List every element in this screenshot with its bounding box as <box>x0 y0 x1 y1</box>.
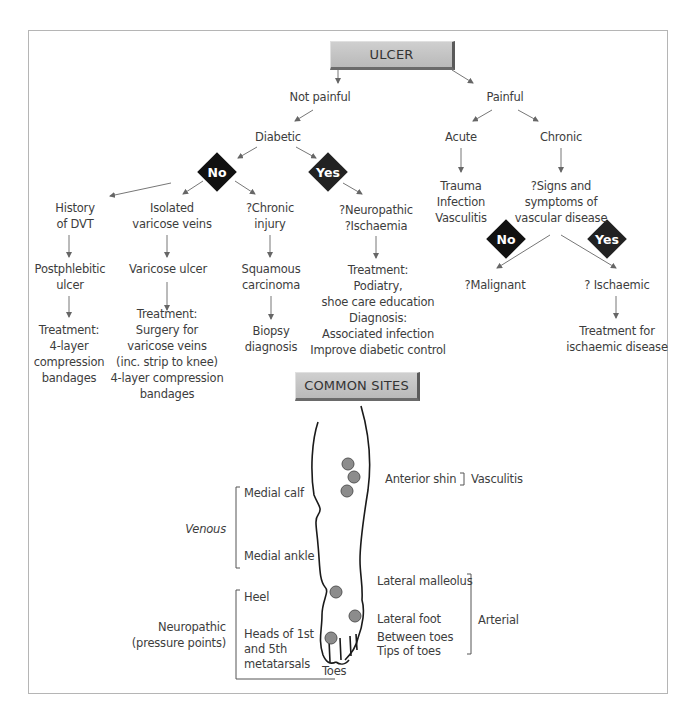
node-acute: Acute <box>445 129 477 145</box>
node-diabetic: Diabetic <box>255 129 301 145</box>
site-medial-calf: Medial calf <box>244 485 304 501</box>
ulcer-title: ULCER <box>369 47 413 62</box>
site-lateral-foot: Lateral foot <box>377 611 441 627</box>
node-painful: Painful <box>486 89 523 105</box>
site-anterior-shin: Anterior shin <box>385 471 456 487</box>
chronic-injury-title: ?Chronic injury <box>246 200 294 232</box>
node-malignant: ?Malignant <box>465 277 526 293</box>
leg-outline <box>312 406 370 664</box>
ischaemic-treatment: Treatment for ischaemic disease <box>566 323 668 355</box>
common-sites-title: COMMON SITES <box>304 378 409 393</box>
decision-yes-label-2: Yes <box>595 232 619 247</box>
varicose-result: Varicose ulcer <box>129 261 207 277</box>
neuropathic-treatment: Treatment: Podiatry, shoe care education… <box>310 262 446 358</box>
site-metatarsals: Heads of 1st and 5th metatarsals <box>244 627 314 672</box>
ulcer-title-box: ULCER <box>330 41 455 70</box>
arterial-group: Arterial <box>478 612 519 628</box>
dvt-title: History of DVT <box>55 200 95 232</box>
varicose-title: Isolated varicose veins <box>132 200 211 232</box>
dvt-treatment: Treatment: 4-layer compression bandages <box>34 322 105 386</box>
node-ischaemic: ? Ischaemic <box>584 277 649 293</box>
acute-causes: Trauma Infection Vasculitis <box>435 178 487 226</box>
site-heel: Heel <box>244 589 269 605</box>
site-toes: Toes <box>322 663 346 679</box>
neuropathic-group: Neuropathic (pressure points) <box>132 619 226 651</box>
node-chronic: Chronic <box>540 129 582 145</box>
decision-no-label-2: No <box>496 232 515 247</box>
decision-no-label-1: No <box>207 165 226 180</box>
neuropathic-title: ?Neuropathic ?Ischaemia <box>339 202 413 234</box>
common-sites-title-box: COMMON SITES <box>295 372 420 401</box>
flow-connectors <box>0 0 696 723</box>
varicose-treatment: Treatment: Surgery for varicose veins (i… <box>110 306 223 402</box>
ulcer-site-dots <box>325 458 361 644</box>
vascular-signs: ?Signs and symptoms of vascular disease <box>515 178 608 226</box>
site-vasculitis-group: Vasculitis <box>471 471 523 487</box>
venous-group: Venous <box>185 521 226 537</box>
site-toes-arterial: Between toes Tips of toes <box>377 630 453 658</box>
chronic-injury-result: Squamous carcinoma <box>242 261 301 293</box>
site-lateral-malleolus: Lateral malleolus <box>377 573 473 589</box>
dvt-result: Postphlebitic ulcer <box>35 261 106 293</box>
decision-yes-label-1: Yes <box>316 165 340 180</box>
site-medial-ankle: Medial ankle <box>244 548 314 564</box>
chronic-injury-treatment: Biopsy diagnosis <box>245 323 298 355</box>
node-not-painful: Not painful <box>290 89 351 105</box>
